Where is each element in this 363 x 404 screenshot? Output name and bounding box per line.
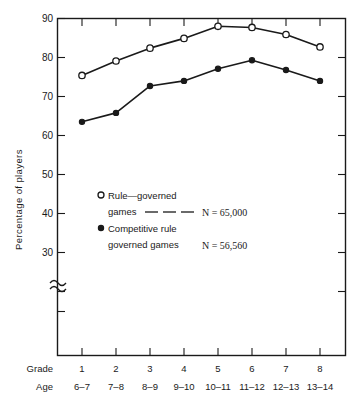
age-tick-2: 7–8: [108, 381, 124, 392]
y-axis-right-ticks: [338, 58, 346, 292]
grade-tick-2: 2: [113, 363, 118, 374]
age-row-label: Age: [36, 381, 53, 392]
chart-figure: 90 80 70 60 50 40 30 Percentage of playe…: [0, 0, 363, 404]
legend-entry2-n: N = 56,560: [202, 240, 247, 251]
ytick-label-70: 70: [42, 91, 54, 102]
data-point-s1-3: [147, 45, 153, 51]
age-tick-7: 12–13: [273, 381, 299, 392]
legend-marker-filled-circle-icon: [98, 225, 103, 230]
legend-entry1-line1: Rule—governed: [108, 190, 177, 201]
series-layer: [79, 23, 323, 124]
age-tick-1: 6–7: [74, 381, 90, 392]
data-point-s1-5: [215, 23, 221, 29]
data-point-s2-8: [317, 78, 322, 83]
legend-entry1-line2: games: [108, 206, 137, 217]
ytick-label-80: 80: [42, 52, 54, 63]
data-point-s2-3: [147, 83, 152, 88]
grade-tick-3: 3: [147, 363, 152, 374]
data-point-s1-6: [249, 24, 255, 30]
data-point-s2-6: [249, 58, 254, 63]
grade-tick-5: 5: [215, 363, 220, 374]
grade-tick-6: 6: [249, 363, 254, 374]
grade-row-label: Grade: [27, 363, 53, 374]
data-point-s2-7: [283, 67, 288, 72]
grade-tick-8: 8: [317, 363, 322, 374]
age-tick-3: 8–9: [142, 381, 158, 392]
grade-tick-1: 1: [79, 363, 84, 374]
grade-tick-4: 4: [181, 363, 186, 374]
ytick-label-90: 90: [42, 13, 54, 24]
age-tick-4: 9–10: [173, 381, 194, 392]
ytick-label-60: 60: [42, 130, 54, 141]
legend-entry2-line2: governed games: [108, 239, 179, 250]
plot-frame: [58, 19, 346, 356]
y-axis-ticks: [58, 19, 66, 312]
data-point-s1-8: [317, 44, 323, 50]
x-axis-ticks: [82, 348, 320, 356]
ytick-label-40: 40: [42, 208, 54, 219]
age-tick-8: 13–14: [307, 381, 333, 392]
data-point-s2-5: [215, 66, 220, 71]
chart-svg: 90 80 70 60 50 40 30 Percentage of playe…: [0, 0, 363, 404]
x-axis-top-ticks: [82, 19, 320, 27]
ytick-label-30: 30: [42, 247, 54, 258]
legend-marker-open-circle-icon: [98, 192, 104, 198]
data-point-s2-1: [79, 119, 84, 124]
ytick-label-50: 50: [42, 169, 54, 180]
data-point-s1-7: [283, 31, 289, 37]
data-point-s2-4: [181, 78, 186, 83]
data-point-s1-4: [181, 35, 187, 41]
data-point-s2-2: [113, 110, 118, 115]
data-point-s1-1: [79, 72, 85, 78]
chart-legend: Rule—governed games N = 65,000 Competiti…: [98, 190, 247, 251]
data-point-s1-2: [113, 58, 119, 64]
age-tick-6: 11–12: [239, 381, 265, 392]
age-tick-5: 10–11: [205, 381, 231, 392]
grade-tick-7: 7: [283, 363, 288, 374]
legend-entry1-n: N = 65,000: [202, 207, 247, 218]
y-axis-title: Percentage of players: [13, 149, 24, 250]
legend-entry2-line1: Competitive rule: [108, 223, 177, 234]
